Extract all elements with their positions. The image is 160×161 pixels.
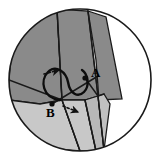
geometric-diagram: A B: [0, 0, 160, 161]
figure-container: A B: [0, 0, 160, 161]
point-A-marker: [82, 75, 87, 80]
point-A-label: A: [91, 65, 101, 80]
point-B-label: B: [46, 105, 55, 120]
shaded-regions-group: [9, 9, 122, 151]
